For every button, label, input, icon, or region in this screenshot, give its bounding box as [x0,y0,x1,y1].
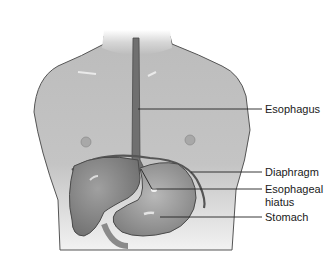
label-diaphragm: Diaphragm [265,166,319,178]
label-esophageal-hiatus-line2: hiatus [265,196,294,208]
label-stomach: Stomach [265,211,308,223]
label-esophageal-hiatus-line1: Esophageal [265,183,323,195]
label-esophagus: Esophagus [265,103,320,115]
